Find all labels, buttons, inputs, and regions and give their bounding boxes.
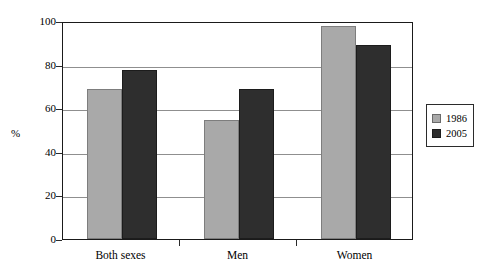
x-tick-mark — [296, 240, 297, 246]
bar-chart: % 020406080100 Both sexesMenWomen 1986 2… — [0, 0, 493, 275]
y-tick-label: 40 — [24, 147, 56, 158]
x-category-label: Women — [295, 249, 415, 262]
legend-item: 2005 — [432, 126, 467, 140]
y-axis-label: % — [11, 127, 20, 139]
y-tick-label: 100 — [24, 16, 56, 27]
y-tick-label: 20 — [24, 190, 56, 201]
bar-men-2005 — [239, 89, 274, 239]
x-tick-mark — [179, 240, 180, 246]
x-category-label: Both sexes — [61, 249, 181, 262]
legend-item: 1986 — [432, 111, 467, 125]
plot-area — [62, 22, 413, 240]
legend-label-1986: 1986 — [446, 113, 467, 124]
y-tick-mark — [56, 240, 62, 241]
bar-women-2005 — [356, 45, 391, 239]
legend-swatch-2005-icon — [432, 129, 441, 138]
bar-both-sexes-2005 — [122, 70, 157, 239]
legend-swatch-1986-icon — [432, 114, 441, 123]
x-category-label: Men — [178, 249, 298, 262]
y-tick-label: 60 — [24, 103, 56, 114]
bar-both-sexes-1986 — [87, 89, 122, 239]
y-tick-label: 0 — [24, 234, 56, 245]
legend-label-2005: 2005 — [446, 128, 467, 139]
y-tick-label: 80 — [24, 60, 56, 71]
bar-women-1986 — [321, 26, 356, 239]
legend: 1986 2005 — [426, 104, 474, 147]
bar-men-1986 — [204, 120, 239, 239]
